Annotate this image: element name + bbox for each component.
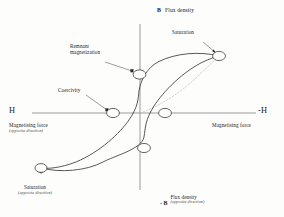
- axis-label-magnetising-force-left-sub: (opposite direction): [9, 129, 48, 134]
- marker-remnant-magnetization: [133, 70, 146, 79]
- hysteresis-diagram: BFlux density Saturation Remnant magneti…: [0, 0, 284, 217]
- annotation-saturation-negative-sub: (opposite direction): [18, 191, 52, 196]
- axis-symbol-h-right-text: -H: [258, 106, 267, 115]
- axis-label-magnetising-force-right: Magnetising force: [212, 123, 251, 129]
- axis-label-b-positive: BFlux density: [157, 7, 194, 13]
- leader-lines-group: [39, 42, 216, 174]
- axis-symbol-b: B: [157, 7, 161, 13]
- annotation-saturation-positive-line1: Saturation: [172, 30, 194, 36]
- marker-negative-coercivity: [107, 108, 120, 117]
- axis-symbol-b-negative: - B: [160, 200, 167, 206]
- marker-negative-remnant-magnetization: [138, 143, 151, 152]
- annotation-remnant-magnetization: Remnant magnetization: [70, 44, 100, 55]
- axis-text-flux-density-negative-sub: (opposite direction): [170, 200, 204, 205]
- axis-symbol-h-left-text: H: [9, 106, 15, 115]
- leader-line-remnant: [105, 62, 132, 71]
- axis-label-magnetising-force-right-text: Magnetising force: [212, 123, 251, 129]
- annotation-saturation-positive: Saturation: [172, 30, 194, 36]
- annotation-saturation-negative: Saturation (opposite direction): [18, 185, 52, 195]
- marker-positive-coercivity: [159, 108, 172, 117]
- axis-label-b-negative: - B Flux density (opposite direction): [160, 191, 204, 208]
- axis-symbol-h-right: -H: [258, 106, 267, 115]
- loop-point-markers: [35, 51, 225, 172]
- annotation-coercivity: Coercivity: [58, 88, 81, 94]
- arrowhead-remnant: [130, 69, 133, 72]
- marker-negative-saturation: [35, 164, 47, 173]
- annotation-coercivity-line1: Coercivity: [58, 88, 81, 94]
- leader-line-coercivity: [86, 95, 107, 110]
- initial-magnetization-curve: [140, 56, 219, 113]
- annotation-remnant-line2: magnetization: [70, 50, 100, 56]
- marker-positive-saturation: [213, 51, 226, 60]
- axis-label-magnetising-force-left: Magnetising force (opposite direction): [9, 123, 48, 133]
- axis-symbol-h-left: H: [9, 106, 15, 115]
- axis-text-flux-density: Flux density: [165, 7, 194, 13]
